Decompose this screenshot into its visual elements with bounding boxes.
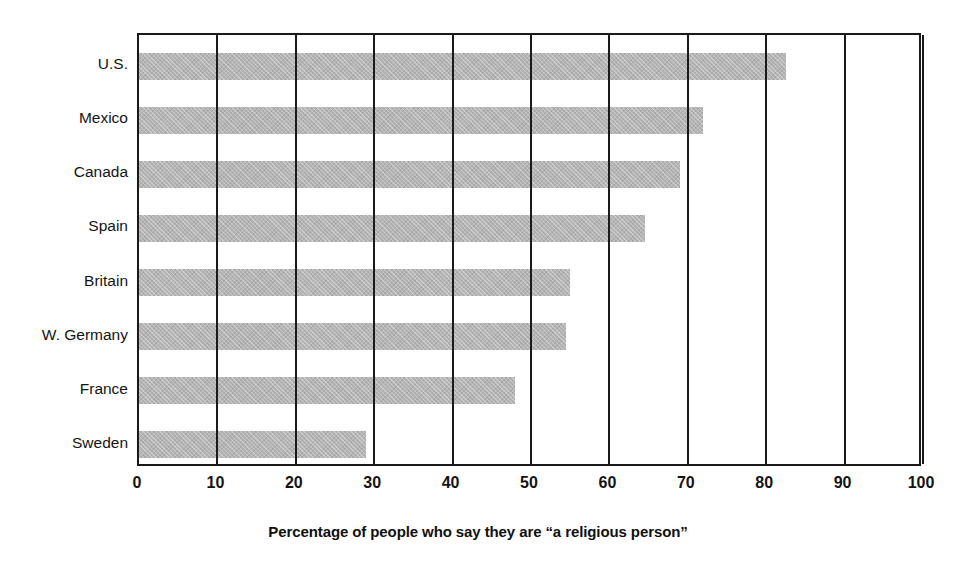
bar-row	[139, 323, 919, 350]
x-axis-title: Percentage of people who say they are “a…	[0, 523, 956, 540]
category-label-sweden: Sweden	[0, 434, 128, 452]
bar-canada	[139, 161, 680, 188]
plot-area	[137, 33, 921, 466]
tick-label-40: 40	[442, 474, 460, 492]
category-axis-labels: U.S.MexicoCanadaSpainBritainW. GermanyFr…	[0, 33, 128, 466]
category-label-u-s: U.S.	[0, 55, 128, 73]
tick-label-100: 100	[908, 474, 935, 492]
bars-layer	[139, 35, 919, 464]
gridline-100	[922, 35, 924, 464]
category-label-w-germany: W. Germany	[0, 326, 128, 344]
tick-label-0: 0	[133, 474, 142, 492]
tick-label-90: 90	[834, 474, 852, 492]
category-label-britain: Britain	[0, 272, 128, 290]
bar-row	[139, 431, 919, 458]
tick-label-10: 10	[206, 474, 224, 492]
bar-u-s	[139, 53, 786, 80]
category-label-france: France	[0, 380, 128, 398]
bar-row	[139, 161, 919, 188]
tick-label-50: 50	[520, 474, 538, 492]
bar-chart: U.S.MexicoCanadaSpainBritainW. GermanyFr…	[0, 0, 956, 562]
bar-spain	[139, 215, 645, 242]
tick-label-20: 20	[285, 474, 303, 492]
category-label-canada: Canada	[0, 163, 128, 181]
category-label-mexico: Mexico	[0, 109, 128, 127]
bar-row	[139, 215, 919, 242]
tick-label-70: 70	[677, 474, 695, 492]
bar-row	[139, 269, 919, 296]
value-axis-tick-labels: 0102030405060708090100	[0, 474, 956, 500]
bar-sweden	[139, 431, 366, 458]
bar-france	[139, 377, 515, 404]
bar-row	[139, 53, 919, 80]
bar-britain	[139, 269, 570, 296]
bar-w-germany	[139, 323, 566, 350]
tick-label-80: 80	[755, 474, 773, 492]
tick-label-60: 60	[598, 474, 616, 492]
category-label-spain: Spain	[0, 217, 128, 235]
bar-row	[139, 377, 919, 404]
tick-label-30: 30	[363, 474, 381, 492]
bar-mexico	[139, 107, 703, 134]
bar-row	[139, 107, 919, 134]
